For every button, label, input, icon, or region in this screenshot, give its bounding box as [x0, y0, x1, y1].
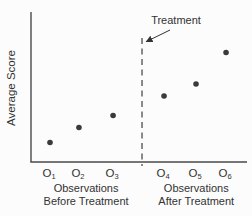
data-point-O2 — [76, 125, 82, 131]
data-point-O4 — [161, 93, 167, 99]
data-point-O6 — [223, 50, 229, 56]
scatter-chart: Average ScoreTreatmentO1O2O3O4O5O6Observ… — [0, 0, 252, 216]
x-tick-label-O6: O6 — [218, 167, 231, 181]
x-tick-label-O5: O5 — [188, 167, 201, 181]
x-tick-label-O1: O1 — [42, 167, 55, 181]
quasi-experiment-figure: Average ScoreTreatmentO1O2O3O4O5O6Observ… — [0, 0, 252, 216]
group-caption-before-line1: Observations — [54, 182, 119, 194]
y-axis-label: Average Score — [5, 50, 17, 126]
data-point-O1 — [47, 140, 53, 146]
x-tick-label-O3: O3 — [106, 167, 119, 181]
treatment-arrow — [147, 30, 170, 42]
treatment-label: Treatment — [151, 14, 201, 26]
group-caption-before-line2: Before Treatment — [44, 195, 129, 207]
data-point-O5 — [193, 81, 199, 87]
x-tick-label-O2: O2 — [71, 167, 84, 181]
group-caption-after-line1: Observations — [164, 182, 229, 194]
group-caption-after-line2: After Treatment — [158, 195, 234, 207]
data-point-O3 — [110, 113, 116, 119]
x-tick-label-O4: O4 — [156, 167, 169, 181]
